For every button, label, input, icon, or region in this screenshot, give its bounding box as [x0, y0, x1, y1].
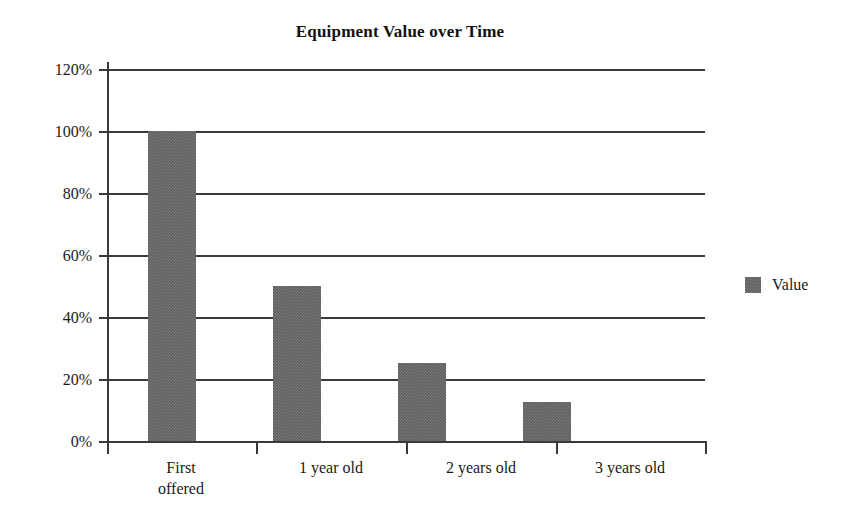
y-tick-label-40: 40% — [14, 310, 92, 326]
bar-1-year-old — [273, 286, 321, 441]
x-tick-0 — [107, 441, 109, 454]
chart-title: Equipment Value over Time — [0, 22, 800, 42]
bar-chart-figure: Equipment Value over Time 120% 100% 80% … — [0, 0, 856, 519]
x-category-label-line-1: 3 years old — [555, 457, 705, 478]
x-tick-3 — [556, 441, 558, 454]
y-tick-mark-80 — [99, 193, 107, 195]
gridline-120 — [107, 69, 705, 71]
y-tick-mark-100 — [99, 131, 107, 133]
y-tick-label-20: 20% — [14, 372, 92, 388]
x-tick-2 — [406, 441, 408, 454]
x-tick-1 — [256, 441, 258, 454]
gridline-40 — [107, 317, 705, 319]
legend-label-value: Value — [772, 276, 808, 294]
y-tick-mark-0 — [99, 441, 107, 443]
x-category-label-line-1: First — [106, 457, 256, 478]
y-tick-label-120: 120% — [14, 62, 92, 78]
x-category-label-first-offered: First offered — [106, 457, 256, 499]
plot-area — [107, 69, 705, 441]
x-category-label-1-year-old: 1 year old — [256, 457, 406, 478]
y-tick-mark-20 — [99, 379, 107, 381]
y-tick-mark-60 — [99, 255, 107, 257]
x-category-label-line-1: 1 year old — [256, 457, 406, 478]
x-category-label-line-2: offered — [106, 478, 256, 499]
gridline-60 — [107, 255, 705, 257]
y-tick-label-100: 100% — [14, 124, 92, 140]
x-category-label-3-years-old: 3 years old — [555, 457, 705, 478]
bar-first-offered — [148, 131, 196, 441]
y-tick-mark-40 — [99, 317, 107, 319]
bar-3-years-old — [523, 402, 571, 441]
gridline-100 — [107, 131, 705, 133]
y-tick-label-60: 60% — [14, 248, 92, 264]
bar-2-years-old — [398, 363, 446, 441]
x-tick-4 — [705, 441, 707, 454]
x-category-label-line-1: 2 years old — [406, 457, 556, 478]
y-tick-mark-120 — [99, 69, 107, 71]
legend-swatch-value — [745, 277, 761, 293]
x-category-label-2-years-old: 2 years old — [406, 457, 556, 478]
y-tick-label-0: 0% — [14, 434, 92, 450]
y-tick-label-80: 80% — [14, 186, 92, 202]
gridline-80 — [107, 193, 705, 195]
chart-legend: Value — [745, 276, 808, 294]
